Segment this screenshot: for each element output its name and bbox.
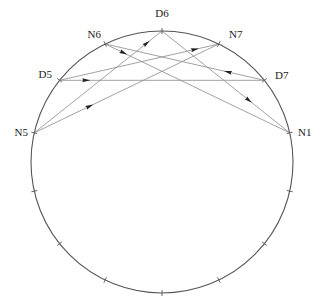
arrowhead-icon	[82, 78, 90, 82]
node-label-n1: N1	[298, 126, 311, 138]
chord-lines	[34, 31, 289, 133]
edge-n6-to-n1	[105, 44, 290, 133]
edge-n5-to-n7	[34, 44, 219, 133]
node-label-d5: D5	[39, 68, 53, 80]
arrowhead-icon	[119, 49, 128, 56]
node-label-d7: D7	[275, 69, 289, 81]
chord-diagram: D6N7D7N1N5D5N6	[0, 0, 324, 307]
node-label-n7: N7	[229, 28, 243, 40]
node-label-n6: N6	[88, 28, 102, 40]
arrowhead-icon	[85, 103, 94, 110]
node-labels: D6N7D7N1N5D5N6	[15, 7, 312, 138]
node-label-d6: D6	[155, 7, 169, 19]
outer-circle	[31, 31, 293, 293]
edge-d6-to-n1	[162, 31, 290, 133]
arrowhead-icon	[191, 47, 200, 53]
node-label-n5: N5	[15, 126, 29, 138]
edge-n5-to-d6	[34, 31, 162, 133]
arrowhead-icon	[223, 69, 232, 75]
